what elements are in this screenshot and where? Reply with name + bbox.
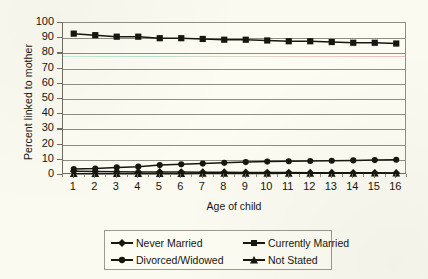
data-point	[200, 36, 206, 42]
x-tick-boundary-5	[170, 174, 171, 177]
y-tick-label-50: 50	[10, 91, 54, 103]
data-point	[92, 32, 98, 38]
x-tick-boundary-3	[127, 174, 128, 177]
x-tick-boundary-4	[148, 174, 149, 177]
legend-item-not-stated: Not Stated	[243, 254, 339, 266]
x-tick-label-16: 16	[382, 180, 408, 192]
legend-item-divorced-widowed: Divorced/Widowed	[111, 254, 243, 266]
series-line	[74, 34, 397, 44]
x-tick-15	[374, 174, 375, 178]
x-tick-boundary-16	[406, 174, 407, 177]
x-tick-5	[159, 174, 160, 178]
x-tick-boundary-13	[342, 174, 343, 177]
y-tick-90	[57, 37, 62, 38]
data-point	[114, 34, 120, 40]
data-point	[264, 159, 270, 165]
x-tick-10	[266, 174, 267, 178]
x-tick-boundary-2	[105, 174, 106, 177]
line-chart: Percent linked to mother 010203040506070…	[0, 0, 428, 279]
legend-label: Divorced/Widowed	[136, 254, 224, 266]
data-point	[221, 160, 227, 166]
x-tick-11	[288, 174, 289, 178]
y-tick-label-40: 40	[10, 106, 54, 118]
y-tick-50	[57, 98, 62, 99]
data-point	[329, 158, 335, 164]
series-layer	[63, 23, 407, 175]
data-point	[286, 158, 292, 164]
data-point	[135, 164, 141, 170]
x-tick-boundary-15	[385, 174, 386, 177]
legend-item-currently-married: Currently Married	[243, 237, 339, 249]
legend-label: Never Married	[136, 237, 203, 249]
y-tick-40	[57, 113, 62, 114]
data-point	[372, 40, 378, 46]
x-tick-9	[245, 174, 246, 178]
y-tick-label-80: 80	[10, 45, 54, 57]
x-tick-4	[137, 174, 138, 178]
data-point	[243, 37, 249, 43]
series-line	[74, 160, 397, 169]
data-point	[393, 157, 399, 163]
x-tick-13	[331, 174, 332, 178]
x-tick-boundary-14	[363, 174, 364, 177]
data-point	[350, 40, 356, 46]
data-point	[200, 161, 206, 167]
x-tick-boundary-12	[320, 174, 321, 177]
data-point	[329, 39, 335, 45]
x-tick-8	[223, 174, 224, 178]
x-tick-12	[309, 174, 310, 178]
data-point	[114, 164, 120, 170]
x-tick-3	[116, 174, 117, 178]
y-tick-80	[57, 52, 62, 53]
y-tick-label-70: 70	[10, 61, 54, 73]
diamond-marker-icon	[111, 237, 133, 248]
data-point	[157, 162, 163, 168]
data-point	[135, 34, 141, 40]
data-point	[178, 161, 184, 167]
data-point	[350, 157, 356, 163]
data-point	[307, 158, 313, 164]
circle-marker-icon	[111, 254, 133, 265]
y-tick-label-0: 0	[10, 167, 54, 179]
y-tick-100	[57, 22, 62, 23]
legend: Never MarriedCurrently MarriedDivorced/W…	[104, 230, 332, 270]
data-point	[286, 38, 292, 44]
data-point	[264, 37, 270, 43]
y-tick-60	[57, 83, 62, 84]
data-point	[307, 38, 313, 44]
triangle-marker-icon	[243, 254, 265, 265]
x-tick-7	[202, 174, 203, 178]
y-tick-20	[57, 144, 62, 145]
legend-label: Not Stated	[268, 254, 318, 266]
x-tick-boundary-7	[213, 174, 214, 177]
plot-area	[62, 22, 406, 174]
y-tick-label-60: 60	[10, 76, 54, 88]
data-point	[71, 31, 77, 37]
y-tick-label-20: 20	[10, 137, 54, 149]
y-tick-70	[57, 68, 62, 69]
x-tick-boundary-10	[277, 174, 278, 177]
x-tick-boundary-1	[84, 174, 85, 177]
x-tick-boundary-9	[256, 174, 257, 177]
x-tick-14	[352, 174, 353, 178]
legend-item-never-married: Never Married	[111, 237, 243, 249]
square-marker-icon	[243, 237, 265, 248]
y-tick-label-90: 90	[10, 30, 54, 42]
x-axis-title: Age of child	[62, 200, 406, 212]
data-point	[157, 35, 163, 41]
data-point	[178, 35, 184, 41]
x-tick-boundary-11	[299, 174, 300, 177]
data-point	[372, 157, 378, 163]
x-tick-1	[73, 174, 74, 178]
x-tick-boundary-8	[234, 174, 235, 177]
data-point	[243, 159, 249, 165]
y-tick-label-30: 30	[10, 121, 54, 133]
y-tick-30	[57, 128, 62, 129]
series-currently-married	[71, 31, 400, 47]
y-tick-10	[57, 159, 62, 160]
y-tick-label-100: 100	[10, 15, 54, 27]
x-tick-6	[180, 174, 181, 178]
data-point	[221, 37, 227, 43]
x-tick-16	[395, 174, 396, 178]
data-point	[393, 40, 399, 46]
